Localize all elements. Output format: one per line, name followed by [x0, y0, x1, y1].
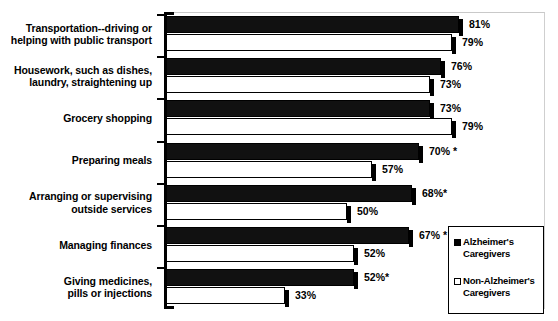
bar-shadow — [285, 290, 289, 307]
chart-legend: Alzheimer's Caregivers Non-Alzheimer's C… — [448, 226, 544, 314]
axis-tick — [157, 225, 166, 227]
value-label: 73% — [440, 100, 461, 117]
axis-tick — [157, 98, 166, 100]
category-label-line: Arranging or supervising — [0, 190, 152, 203]
axis-tick — [157, 14, 166, 16]
bar-alzheimers — [166, 143, 419, 160]
value-label: 52% — [364, 245, 385, 262]
value-label: 76% — [451, 58, 472, 75]
horizontal-bar-chart: Transportation--driving orhelping with p… — [0, 0, 558, 321]
bar-group: Preparing meals70% *57% — [0, 141, 558, 183]
bar-group: Grocery shopping73%79% — [0, 98, 558, 140]
value-label: 70% * — [429, 143, 457, 160]
bar-row: 73% — [166, 100, 490, 117]
bar-group: Arranging or supervisingoutside services… — [0, 183, 558, 225]
bar-shadow — [430, 79, 434, 96]
bar-non-alzheimers — [166, 118, 452, 135]
bar-row: 52% — [166, 245, 414, 262]
category-label-line: pills or injections — [0, 287, 152, 300]
filled-square-icon — [454, 239, 461, 246]
bar-non-alzheimers — [166, 287, 285, 304]
bar-alzheimers — [166, 58, 441, 75]
bar-shadow — [354, 272, 358, 289]
bar-non-alzheimers — [166, 245, 354, 262]
value-label: 73% — [440, 76, 461, 93]
category-label-line: Giving medicines, — [0, 275, 152, 288]
bar-row: 70% * — [166, 143, 479, 160]
value-label: 79% — [462, 34, 483, 51]
bar-non-alzheimers — [166, 203, 347, 220]
bar-shadow — [354, 248, 358, 265]
bar-group: Housework, such as dishes,laundry, strai… — [0, 56, 558, 98]
axis-tick — [157, 183, 166, 185]
value-label: 57% — [382, 161, 403, 178]
bar-row: 50% — [166, 203, 407, 220]
bar-non-alzheimers — [166, 76, 430, 93]
bar-row: 79% — [166, 34, 512, 51]
axis-tick — [157, 141, 166, 143]
category-label-line: Transportation--driving or — [0, 22, 152, 35]
category-label-line: outside services — [0, 203, 152, 216]
bar-row: 33% — [166, 287, 345, 304]
value-label: 33% — [295, 287, 316, 304]
bar-alzheimers — [166, 100, 430, 117]
value-label: 79% — [462, 118, 483, 135]
category-label: Arranging or supervisingoutside services — [0, 190, 152, 215]
bar-shadow — [412, 188, 416, 205]
legend-label-line1: Alzheimer's — [463, 236, 514, 247]
bar-non-alzheimers — [166, 34, 452, 51]
bar-shadow — [347, 206, 351, 223]
bar-alzheimers — [166, 185, 412, 202]
legend-item-non-alzheimers: Non-Alzheimer's Caregivers — [454, 275, 542, 298]
category-label: Preparing meals — [0, 154, 152, 167]
legend-item-alzheimers: Alzheimer's Caregivers — [454, 236, 542, 259]
bar-row: 81% — [166, 16, 519, 33]
bar-alzheimers — [166, 227, 409, 244]
bar-row: 52%* — [166, 269, 414, 286]
bar-non-alzheimers — [166, 161, 372, 178]
category-label-line: Managing finances — [0, 239, 152, 252]
bar-row: 79% — [166, 118, 512, 135]
bar-alzheimers — [166, 269, 354, 286]
category-label: Giving medicines,pills or injections — [0, 275, 152, 300]
value-label: 52%* — [364, 269, 389, 286]
category-label-line: Housework, such as dishes, — [0, 64, 152, 77]
bar-shadow — [452, 37, 456, 54]
value-label: 81% — [469, 16, 490, 33]
bar-shadow — [372, 164, 376, 181]
value-label: 68%* — [422, 185, 447, 202]
legend-label-line1: Non-Alzheimer's — [463, 275, 535, 286]
legend-label-line2: Caregivers — [463, 248, 542, 260]
category-label-line: laundry, straightening up — [0, 76, 152, 89]
bar-row: 73% — [166, 76, 490, 93]
bar-row: 67% * — [166, 227, 469, 244]
bar-alzheimers — [166, 16, 459, 33]
category-label: Transportation--driving orhelping with p… — [0, 22, 152, 47]
category-label: Housework, such as dishes,laundry, strai… — [0, 64, 152, 89]
axis-tick — [157, 267, 166, 269]
bar-row: 68%* — [166, 185, 472, 202]
category-label-line: Preparing meals — [0, 154, 152, 167]
bar-row: 57% — [166, 161, 432, 178]
value-label: 67% * — [419, 227, 447, 244]
hollow-square-icon — [454, 278, 461, 285]
category-label: Managing finances — [0, 239, 152, 252]
bar-group: Transportation--driving orhelping with p… — [0, 14, 558, 56]
category-label-line: helping with public transport — [0, 34, 152, 47]
bar-row: 76% — [166, 58, 501, 75]
bar-shadow — [452, 121, 456, 138]
axis-tick — [157, 56, 166, 58]
category-label: Grocery shopping — [0, 112, 152, 125]
value-label: 50% — [357, 203, 378, 220]
category-label-line: Grocery shopping — [0, 112, 152, 125]
legend-label-line2: Caregivers — [463, 287, 542, 299]
